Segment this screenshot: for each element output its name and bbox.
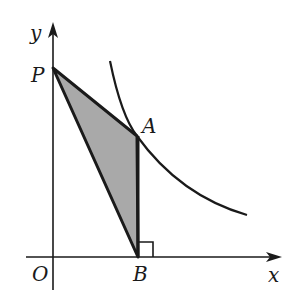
right-angle-marker [138, 242, 153, 257]
triangle-PAB [53, 68, 138, 257]
origin-label: O [32, 262, 48, 286]
point-B-label: B [132, 262, 148, 286]
diagram-canvas: y P A O B x [0, 0, 293, 307]
point-P-label: P [30, 63, 45, 87]
point-A-label: A [140, 114, 156, 138]
y-axis-label: y [29, 21, 42, 45]
x-axis-label: x [268, 263, 279, 287]
